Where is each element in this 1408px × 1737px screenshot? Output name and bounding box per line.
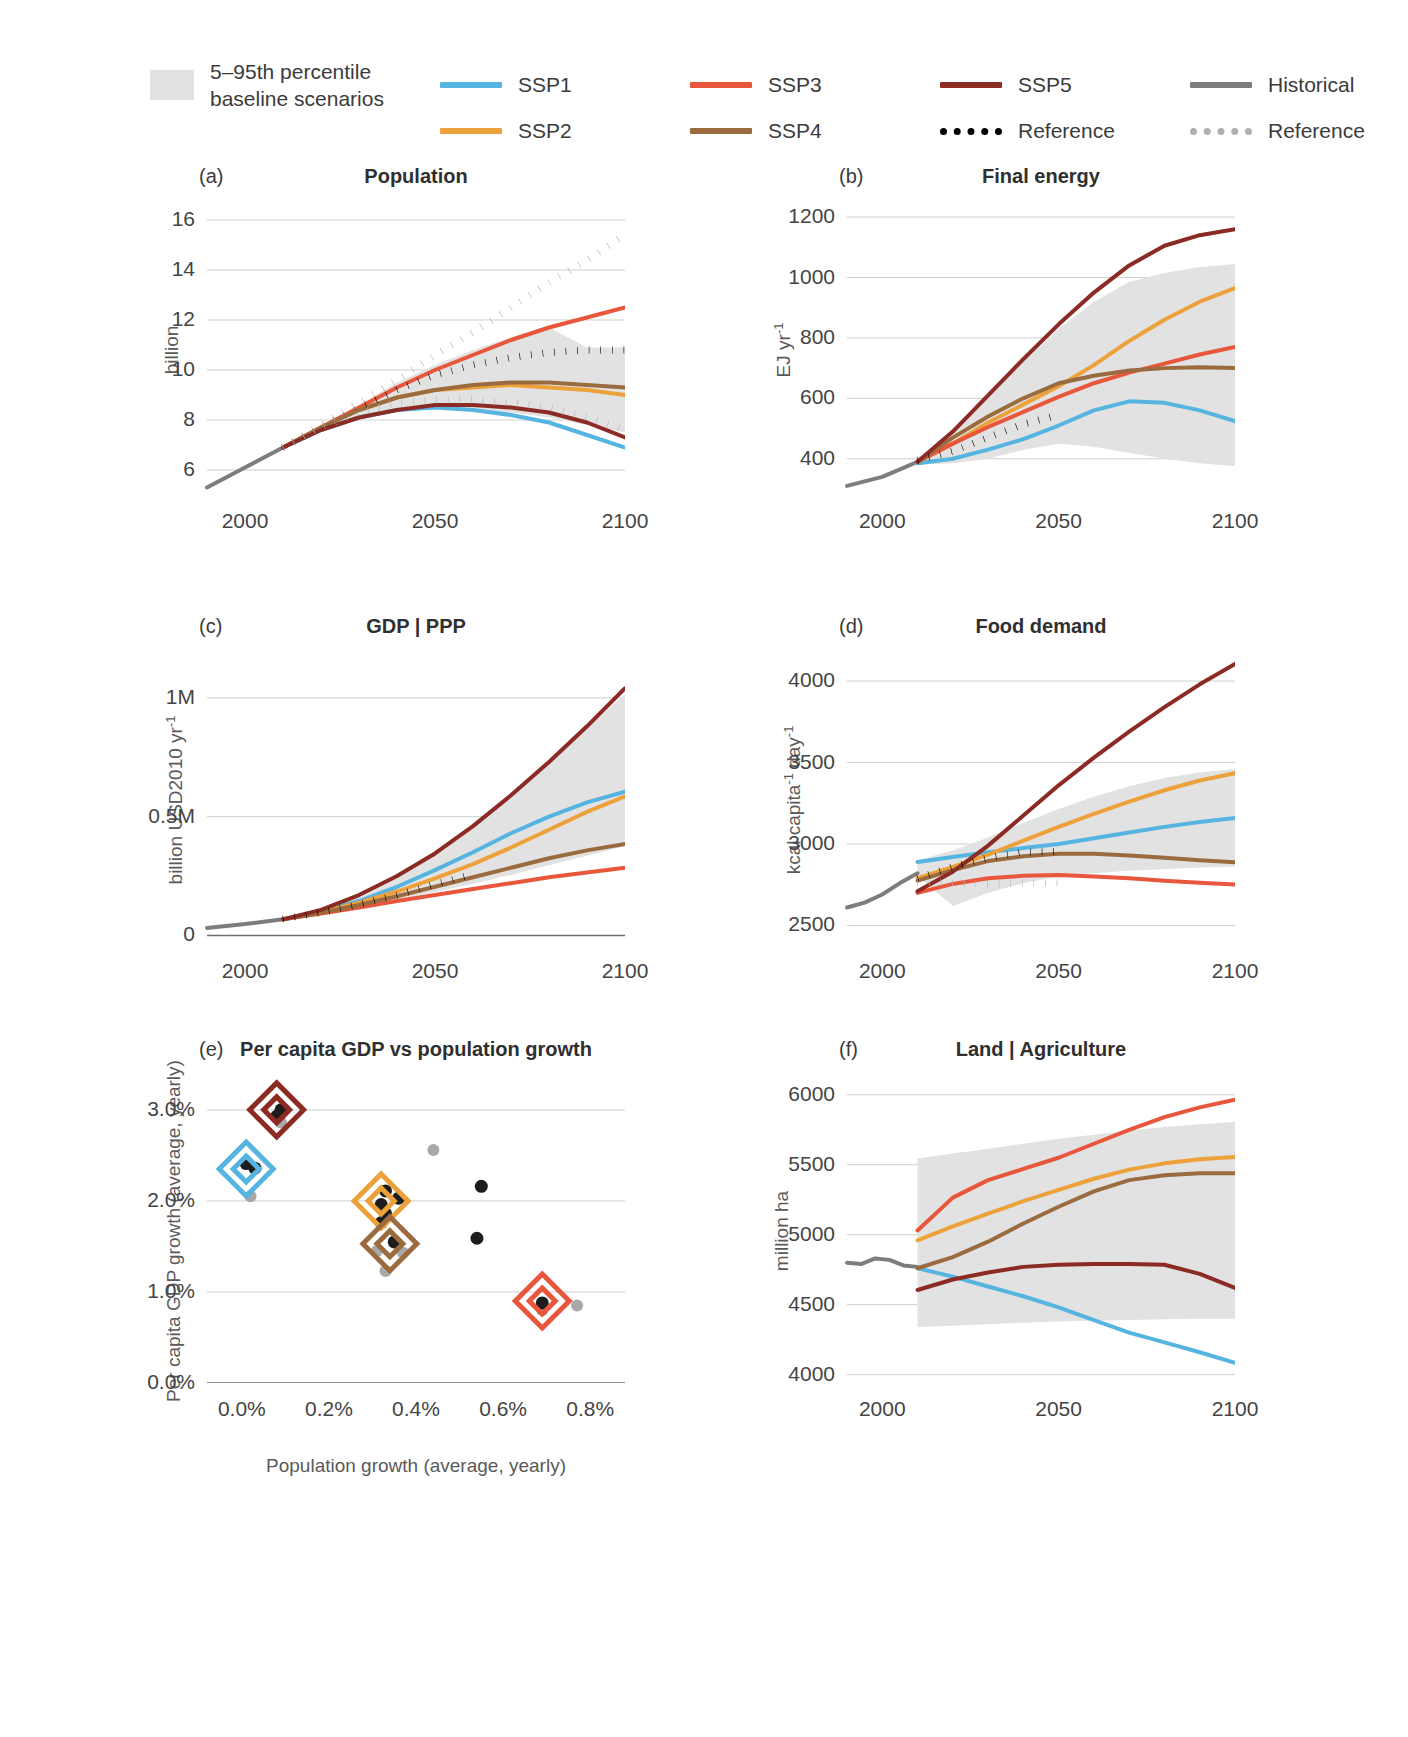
y-tick-label: 1.0% <box>99 1279 195 1303</box>
y-tick-label: 1200 <box>739 204 835 228</box>
chart-panel-d: (d)Food demandkcal capita-1 day-12500300… <box>755 615 1235 945</box>
x-tick-label: 2000 <box>195 509 295 533</box>
plot-area-c <box>145 615 625 945</box>
y-tick-label: 0 <box>99 922 195 946</box>
y-tick-label: 4000 <box>739 1362 835 1386</box>
x-tick-label: 2050 <box>385 959 485 983</box>
y-tick-label: 4500 <box>739 1292 835 1316</box>
legend-item[interactable]: SSP5 <box>940 62 1115 108</box>
y-tick-label: 0.5M <box>99 804 195 828</box>
y-tick-label: 2.0% <box>99 1188 195 1212</box>
series-line <box>847 462 918 486</box>
chart-panel-c: (c)GDP | PPPbillion USD2010 yr-100.5M1M2… <box>145 615 625 945</box>
legend-label: SSP2 <box>518 118 572 144</box>
y-tick-label: 1M <box>99 685 195 709</box>
legend-label: SSP5 <box>1018 72 1072 98</box>
legend-item[interactable]: SSP4 <box>690 108 822 154</box>
y-tick-label: 3500 <box>739 750 835 774</box>
legend-column-4: SSP5Reference <box>940 62 1115 157</box>
legend-item[interactable]: SSP1 <box>440 62 572 108</box>
legend-label: SSP4 <box>768 118 822 144</box>
x-tick-label: 2050 <box>1009 959 1109 983</box>
figure-legend: 5–95th percentilebaseline scenariosSSP1S… <box>150 62 1390 157</box>
y-tick-label: 5000 <box>739 1222 835 1246</box>
y-tick-label: 5500 <box>739 1152 835 1176</box>
y-tick-label: 10 <box>99 357 195 381</box>
series-line <box>847 1258 918 1266</box>
scatter-point-dark <box>470 1232 483 1245</box>
chart-panel-b: (b)Final energyEJ yr-1400600800100012002… <box>755 165 1235 495</box>
y-tick-label: 8 <box>99 407 195 431</box>
legend-label: SSP1 <box>518 72 572 98</box>
plot-area-e <box>145 1038 625 1383</box>
x-tick-label: 2000 <box>832 509 932 533</box>
x-tick-label: 2000 <box>832 1397 932 1421</box>
chart-panel-a: (a)Populationbillion68101214162000205021… <box>145 165 625 495</box>
legend-item[interactable]: Reference <box>1190 108 1365 154</box>
legend-item[interactable]: Historical <box>1190 62 1365 108</box>
y-tick-label: 3000 <box>739 831 835 855</box>
legend-item[interactable]: 5–95th percentilebaseline scenarios <box>150 62 384 108</box>
legend-item[interactable]: SSP3 <box>690 62 822 108</box>
legend-line-swatch <box>940 82 1002 88</box>
y-tick-label: 400 <box>739 446 835 470</box>
x-tick-label: 0.8% <box>540 1397 640 1421</box>
legend-column-2: SSP1SSP2 <box>440 62 572 157</box>
uncertainty-band <box>918 769 1235 906</box>
x-tick-label: 2100 <box>1185 959 1285 983</box>
y-tick-label: 3.0% <box>99 1097 195 1121</box>
legend-column-1: 5–95th percentilebaseline scenarios <box>150 62 384 157</box>
x-tick-label: 0.4% <box>366 1397 466 1421</box>
legend-dotted-swatch <box>1190 128 1252 135</box>
x-tick-label: 2000 <box>832 959 932 983</box>
y-tick-label: 600 <box>739 385 835 409</box>
legend-line-swatch <box>440 128 502 134</box>
plot-area-d <box>755 615 1235 945</box>
x-tick-label: 0.0% <box>192 1397 292 1421</box>
y-tick-label: 6 <box>99 457 195 481</box>
plot-area-a <box>145 165 625 495</box>
scatter-point-grey <box>427 1144 439 1156</box>
series-line <box>207 448 283 488</box>
legend-line-swatch <box>690 128 752 134</box>
y-tick-label: 1000 <box>739 265 835 289</box>
legend-label: 5–95th percentilebaseline scenarios <box>210 58 384 113</box>
y-tick-label: 2500 <box>739 912 835 936</box>
y-tick-label: 800 <box>739 325 835 349</box>
x-tick-label: 2000 <box>195 959 295 983</box>
legend-label: Reference <box>1018 118 1115 144</box>
legend-band-swatch <box>150 70 194 100</box>
legend-dotted-swatch <box>940 128 1002 135</box>
y-tick-label: 4000 <box>739 668 835 692</box>
legend-item[interactable]: SSP2 <box>440 108 572 154</box>
legend-item[interactable]: Reference <box>940 108 1115 154</box>
legend-line-swatch <box>690 82 752 88</box>
series-line <box>847 873 918 907</box>
legend-label: Reference <box>1268 118 1365 144</box>
series-line <box>207 919 283 928</box>
legend-label: SSP3 <box>768 72 822 98</box>
x-tick-label: 2100 <box>575 509 675 533</box>
x-tick-label: 2050 <box>1009 1397 1109 1421</box>
y-tick-label: 0.0% <box>99 1370 195 1394</box>
x-tick-label: 2050 <box>1009 509 1109 533</box>
legend-line-swatch <box>1190 82 1252 88</box>
scatter-point-dark <box>475 1180 488 1193</box>
legend-column-5: HistoricalReference <box>1190 62 1365 157</box>
x-tick-label: 0.2% <box>279 1397 379 1421</box>
legend-line-swatch <box>440 82 502 88</box>
x-tick-label: 2050 <box>385 509 485 533</box>
chart-panel-e: (e)Per capita GDP vs population growthPe… <box>145 1038 625 1383</box>
x-tick-label: 2100 <box>1185 1397 1285 1421</box>
x-tick-label: 2100 <box>1185 509 1285 533</box>
scatter-point-grey <box>571 1300 583 1312</box>
y-tick-label: 12 <box>99 307 195 331</box>
x-tick-label: 0.6% <box>453 1397 553 1421</box>
legend-label: Historical <box>1268 72 1354 98</box>
x-axis-label-e: Population growth (average, yearly) <box>207 1455 625 1477</box>
x-tick-label: 2100 <box>575 959 675 983</box>
y-tick-label: 14 <box>99 257 195 281</box>
chart-panel-f: (f)Land | Agriculturemillion ha400045005… <box>755 1038 1235 1383</box>
y-tick-label: 6000 <box>739 1082 835 1106</box>
legend-column-3: SSP3SSP4 <box>690 62 822 157</box>
